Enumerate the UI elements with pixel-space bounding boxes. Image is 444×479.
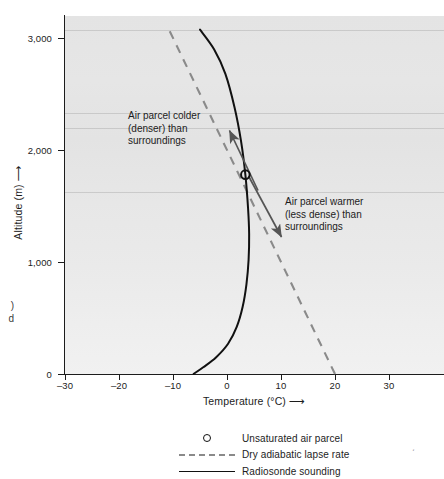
background-scanline — [65, 113, 444, 114]
annotation-warmer-line-2: (less dense) than — [285, 209, 363, 222]
background-scanline — [65, 192, 444, 193]
legend-key-solid — [178, 471, 236, 472]
circle-marker-icon — [203, 434, 211, 442]
x-tick-label-minus30: –30 — [57, 380, 73, 391]
stability-diagram-figure: 0 1,000 2,000 3,000 –30 –20 –10 0 10 20 … — [0, 0, 444, 479]
y-axis-title-text: Altitude (m) — [12, 184, 24, 239]
y-tick-label-2000: 2,000 — [0, 145, 52, 156]
y-tick — [58, 262, 64, 263]
annotation-warmer: Air parcel warmer (less dense) than surr… — [285, 196, 363, 234]
x-axis-title-text: Temperature (°C) — [203, 395, 286, 407]
legend: Unsaturated air parcel Dry adiabatic lap… — [178, 430, 428, 479]
plot-area — [65, 16, 444, 374]
y-tick — [58, 150, 64, 151]
annotation-colder-line-1: Air parcel colder — [128, 110, 200, 123]
x-axis-line — [64, 374, 444, 375]
x-tick-label-minus20: –20 — [111, 380, 127, 391]
legend-item-unsaturated-air-parcel: Unsaturated air parcel — [178, 430, 428, 447]
dashed-line-icon — [179, 454, 235, 456]
x-axis-arrow-icon: ⟶ — [289, 395, 305, 407]
y-tick-label-3000: 3,000 — [0, 33, 52, 44]
legend-label-unsaturated-air-parcel: Unsaturated air parcel — [236, 433, 343, 444]
background-scanline — [65, 30, 444, 31]
solid-line-icon — [179, 471, 235, 472]
legend-key-dashed — [178, 454, 236, 456]
x-tick-label-30: 30 — [384, 380, 395, 391]
annotation-colder: Air parcel colder (denser) than surround… — [128, 110, 200, 148]
y-axis-arrow-icon: ⟶ — [12, 165, 24, 181]
annotation-colder-line-3: surroundings — [128, 135, 200, 148]
y-tick — [58, 374, 64, 375]
legend-item-dry-adiabatic-lapse-rate: Dry adiabatic lapse rate — [178, 447, 428, 464]
edge-text-fragment: ) d — [0, 300, 14, 325]
y-axis-title: Altitude (m) ⟶ — [12, 133, 25, 273]
legend-label-radiosonde-sounding: Radiosonde sounding — [236, 466, 341, 477]
edge-text-fragment-line-2: d — [0, 313, 14, 326]
legend-key-circle — [178, 434, 236, 442]
annotation-colder-line-2: (denser) than — [128, 123, 200, 136]
y-axis-line — [64, 15, 65, 375]
annotation-warmer-line-1: Air parcel warmer — [285, 196, 363, 209]
x-tick-label-0: 0 — [224, 380, 229, 391]
legend-label-dry-adiabatic-lapse-rate: Dry adiabatic lapse rate — [236, 449, 349, 460]
background-scanline — [65, 128, 444, 129]
edge-text-fragment-line-1: ) — [0, 300, 14, 313]
x-tick-label-10: 10 — [276, 380, 287, 391]
x-tick-label-20: 20 — [330, 380, 341, 391]
annotation-warmer-line-3: surroundings — [285, 221, 363, 234]
y-tick — [58, 38, 64, 39]
y-tick-label-1000: 1,000 — [0, 257, 52, 268]
y-tick-label-0: 0 — [0, 369, 52, 380]
legend-item-radiosonde-sounding: Radiosonde sounding — [178, 463, 428, 479]
x-axis-title: Temperature (°C) ⟶ — [64, 395, 444, 408]
x-tick-label-minus10: –10 — [165, 380, 181, 391]
